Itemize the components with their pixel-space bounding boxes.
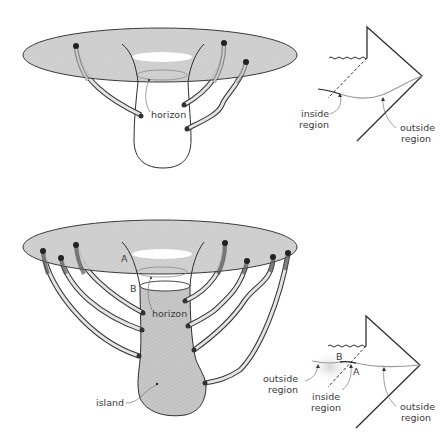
black-hole-island-diagram: horizon inside region outside region xyxy=(0,0,445,446)
island-outside-label-2: region xyxy=(268,384,298,395)
inside-region-label-2: region xyxy=(311,402,341,413)
point-a-label: A xyxy=(121,253,128,264)
cauchy-slice-outside xyxy=(340,76,422,98)
inside-region-label-2: region xyxy=(299,119,329,130)
point-b-label: B xyxy=(130,283,137,294)
island-outside-label: outside xyxy=(263,373,298,384)
point-a-label: A xyxy=(353,366,360,377)
top-embedding-diagram: horizon xyxy=(23,28,297,168)
outside-region-label: outside xyxy=(400,401,435,412)
top-penrose-diagram: inside region outside region xyxy=(299,27,435,144)
black-hole-throat xyxy=(134,82,191,168)
outside-region-label: outside xyxy=(400,122,435,133)
horizon-label: horizon xyxy=(151,109,186,120)
cauchy-slice-outside xyxy=(356,363,420,367)
horizon-label: horizon xyxy=(152,308,187,319)
bottom-penrose-diagram: B A outside region inside region outside… xyxy=(263,316,435,428)
outside-region-label-2: region xyxy=(401,133,431,144)
singularity-wavy-line xyxy=(329,57,367,59)
inside-region-label: inside xyxy=(301,108,329,119)
disc-highlight xyxy=(132,52,192,62)
singularity-wavy-line xyxy=(328,345,366,347)
bottom-embedding-diagram: A B horizon island xyxy=(23,220,297,416)
horizon-leader xyxy=(146,80,150,112)
outside-region-label-2: region xyxy=(401,412,431,423)
inside-region-label: inside xyxy=(312,391,340,402)
cauchy-slice-inside xyxy=(318,89,340,94)
island-label: island xyxy=(96,397,124,408)
island-shaded-region xyxy=(308,351,352,383)
disc-highlight xyxy=(132,249,192,259)
point-b-label: B xyxy=(336,351,343,362)
island-top-ring xyxy=(140,281,190,291)
